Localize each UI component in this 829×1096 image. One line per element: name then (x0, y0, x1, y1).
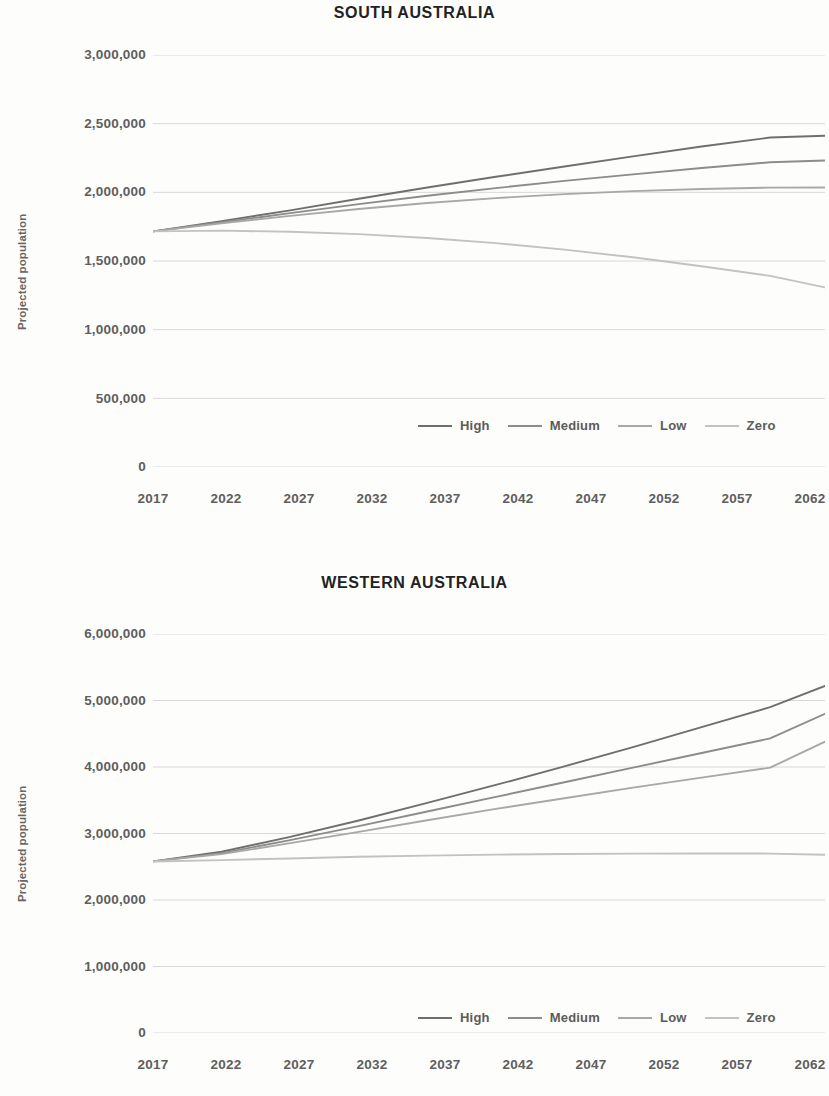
y-tick-label: 5,000,000 (84, 693, 146, 708)
chart-panel-south-australia: SOUTH AUSTRALIA Projected population 3,0… (0, 0, 829, 548)
x-tick-label: 2047 (559, 491, 623, 506)
legend-label: Zero (747, 418, 776, 433)
legend-item-medium[interactable]: Medium (508, 418, 600, 433)
legend-item-high[interactable]: High (418, 418, 490, 433)
chart-title-south-australia: SOUTH AUSTRALIA (0, 4, 829, 22)
x-tick-label: 2017 (121, 1057, 185, 1072)
x-tick-label: 2057 (705, 491, 769, 506)
figure-page: SOUTH AUSTRALIA Projected population 3,0… (0, 0, 829, 1096)
series-line-low (153, 742, 825, 862)
legend-label: Medium (550, 1010, 600, 1025)
x-tick-label: 2042 (486, 491, 550, 506)
series-line-zero (153, 231, 825, 288)
y-tick-label: 4,000,000 (84, 759, 146, 774)
y-tick-label: 2,500,000 (84, 116, 146, 131)
y-tick-label: 0 (138, 459, 146, 474)
legend-line-swatch-zero (705, 1017, 739, 1019)
y-tick-label: 1,000,000 (84, 959, 146, 974)
legend-item-low[interactable]: Low (618, 1010, 687, 1025)
x-tick-label: 2057 (705, 1057, 769, 1072)
x-tick-label: 2042 (486, 1057, 550, 1072)
x-tick-label: 2037 (413, 491, 477, 506)
legend-line-swatch-medium (508, 1017, 542, 1019)
legend-label: Low (660, 1010, 687, 1025)
legend-line-swatch-high (418, 425, 452, 427)
y-tick-label: 3,000,000 (84, 826, 146, 841)
y-axis-title-chart-1: Projected population (16, 214, 28, 330)
legend-line-swatch-low (618, 1017, 652, 1019)
x-tick-label: 2052 (632, 1057, 696, 1072)
legend-label: High (460, 418, 490, 433)
legend-item-high[interactable]: High (418, 1010, 490, 1025)
legend-label: High (460, 1010, 490, 1025)
legend-line-swatch-low (618, 425, 652, 427)
plot-area-chart-2 (153, 634, 825, 1033)
y-axis-title-chart-2: Projected population (16, 786, 28, 902)
y-tick-label: 0 (138, 1025, 146, 1040)
legend-item-low[interactable]: Low (618, 418, 687, 433)
x-tick-label: 2047 (559, 1057, 623, 1072)
line-chart-svg-south-australia (153, 55, 825, 467)
legend-label: Medium (550, 418, 600, 433)
legend-item-zero[interactable]: Zero (705, 418, 776, 433)
legend-item-zero[interactable]: Zero (705, 1010, 776, 1025)
x-tick-label: 2027 (267, 491, 331, 506)
x-tick-label: 2052 (632, 491, 696, 506)
x-tick-label: 2032 (340, 1057, 404, 1072)
legend-line-swatch-zero (705, 425, 739, 427)
plot-area-chart-1 (153, 55, 825, 467)
y-tick-label: 6,000,000 (84, 626, 146, 641)
series-line-zero (153, 853, 825, 861)
y-tick-label: 3,000,000 (84, 47, 146, 62)
legend-chart-1: High Medium Low Zero (418, 418, 794, 433)
x-tick-label: 2022 (194, 491, 258, 506)
legend-label: Zero (747, 1010, 776, 1025)
line-chart-svg-western-australia (153, 634, 825, 1033)
x-tick-label: 2032 (340, 491, 404, 506)
legend-label: Low (660, 418, 687, 433)
series-line-low (153, 188, 825, 232)
x-tick-label: 2062 (778, 491, 829, 506)
legend-line-swatch-medium (508, 425, 542, 427)
legend-chart-2: High Medium Low Zero (418, 1010, 794, 1025)
x-tick-label: 2062 (778, 1057, 829, 1072)
y-tick-label: 500,000 (96, 391, 146, 406)
y-tick-label: 1,000,000 (84, 322, 146, 337)
legend-line-swatch-high (418, 1017, 452, 1019)
x-tick-label: 2027 (267, 1057, 331, 1072)
chart-title-western-australia: WESTERN AUSTRALIA (0, 574, 829, 592)
x-tick-label: 2017 (121, 491, 185, 506)
legend-item-medium[interactable]: Medium (508, 1010, 600, 1025)
y-tick-label: 2,000,000 (84, 184, 146, 199)
y-tick-label: 2,000,000 (84, 892, 146, 907)
x-tick-label: 2022 (194, 1057, 258, 1072)
chart-panel-western-australia: WESTERN AUSTRALIA Projected population 6… (0, 548, 829, 1096)
y-tick-label: 1,500,000 (84, 253, 146, 268)
x-tick-label: 2037 (413, 1057, 477, 1072)
